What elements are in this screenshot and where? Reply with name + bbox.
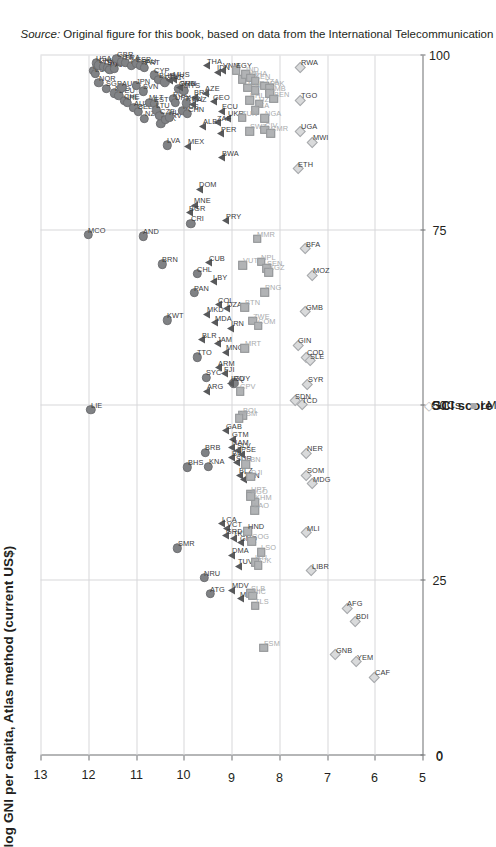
point-label: BEN <box>273 89 289 98</box>
point-label: TTO <box>197 348 212 357</box>
point-label: MMR <box>257 229 275 238</box>
point-label: GAB <box>225 421 241 430</box>
point-label: KGZ <box>268 263 284 272</box>
point-label: LBY <box>213 272 227 281</box>
point-label: SMR <box>177 539 194 548</box>
point-label: MDV <box>231 581 248 590</box>
y-axis-title: log GNI per capita, Atlas method (curren… <box>0 287 15 847</box>
point-label: FSM <box>263 638 279 647</box>
gridline-horizontal <box>327 55 328 755</box>
point-label: PRY <box>225 211 240 220</box>
y-tick-label: 9 <box>228 771 235 785</box>
point-label: GMB <box>305 302 322 311</box>
point-label: DJI <box>250 467 261 476</box>
point-label: NRU <box>204 568 220 577</box>
point-label: MDA <box>214 313 231 322</box>
point-label: ALB <box>202 117 216 126</box>
rotated-figure-wrapper: log GNI per capita, Atlas method (curren… <box>0 0 496 847</box>
point-label: IRN <box>230 319 243 328</box>
source-note: Source: Original figure for this book, b… <box>20 27 496 39</box>
point-label: LAO <box>254 501 269 510</box>
y-tick-label: 7 <box>323 771 330 785</box>
point-label: ARG <box>206 382 222 391</box>
point-label: GNB <box>335 645 351 654</box>
y-tick-label: 5 <box>419 771 426 785</box>
point-label: RWA <box>300 58 317 67</box>
x-tick <box>420 579 425 580</box>
point-label: MOZ <box>312 266 329 275</box>
point-label: NGA <box>264 109 280 118</box>
point-label: LIE <box>90 400 101 409</box>
source-text: Original figure for this book, based on … <box>60 27 496 39</box>
y-tick-label: 10 <box>176 767 190 781</box>
point-label: TUN <box>242 108 258 117</box>
gridline-horizontal <box>374 55 375 755</box>
x-tick-label: 75 <box>432 223 446 237</box>
point-label: CPV <box>240 382 256 391</box>
legend-marker-square-icon: ■ <box>469 399 477 413</box>
y-tick <box>422 755 423 760</box>
gridline-horizontal <box>279 55 280 755</box>
x-tick-label: 100 <box>429 48 450 62</box>
legend-item-lics[interactable]: ◇ LICs <box>424 399 461 411</box>
point-label: AFG <box>347 599 363 608</box>
y-tick <box>136 755 137 760</box>
point-label: MKD <box>206 305 223 314</box>
point-label: PNG <box>264 283 280 292</box>
legend-marker-diamond-icon: ◇ <box>424 399 434 413</box>
point-label: MEX <box>187 137 203 146</box>
point-label: COG <box>251 532 268 541</box>
gridline-horizontal <box>136 55 137 755</box>
point-label: PAN <box>194 283 209 292</box>
legend-label: LICs <box>434 399 461 411</box>
point-label: YEM <box>356 652 372 661</box>
point-label: MRT <box>244 339 260 348</box>
legend: ◇ LICs■ LMICs▲ UMICs● HICs <box>424 398 496 413</box>
point-label: MWI <box>312 133 328 142</box>
point-label: SLE <box>310 351 324 360</box>
y-tick <box>40 755 41 760</box>
point-label: TLS <box>255 596 269 605</box>
axis-origin-label: 0 <box>436 749 443 763</box>
point-label: CAF <box>374 668 389 677</box>
point-label: AZE <box>205 84 220 93</box>
y-tick-label: 12 <box>81 767 95 781</box>
point-label: LVA <box>167 136 180 145</box>
y-tick-label: 13 <box>33 767 47 781</box>
point-label: NIC <box>252 586 265 595</box>
point-label: GEO <box>213 92 230 101</box>
point-label: AND <box>143 227 159 236</box>
point-label: ZAF <box>217 113 231 122</box>
plot-area: 025507510056789101112130 MCOLIEANDBRNKWT… <box>40 55 422 755</box>
point-label: CMR <box>270 124 287 133</box>
legend-item-lmics[interactable]: ■ LMICs <box>469 399 496 411</box>
source-prefix: Source: <box>20 27 60 39</box>
point-label: SYR <box>307 375 323 384</box>
point-label: GIN <box>298 336 311 345</box>
y-tick-label: 6 <box>371 771 378 785</box>
y-tick-label: 8 <box>275 771 282 785</box>
point-label: UGA <box>300 122 316 131</box>
point-label: PER <box>220 124 236 133</box>
y-tick <box>88 755 89 760</box>
scatter-figure: log GNI per capita, Atlas method (curren… <box>0 0 496 847</box>
point-label: COM <box>258 316 276 325</box>
point-label: LIBR <box>311 561 328 570</box>
gridline-horizontal <box>40 55 41 755</box>
point-label: BTN <box>244 298 259 307</box>
x-tick-label: 25 <box>432 573 446 587</box>
point-label: TCD <box>302 395 318 404</box>
point-label: PSE <box>241 445 256 454</box>
point-label: LSO <box>261 543 276 552</box>
point-label: BWA <box>221 148 238 157</box>
point-label: AGO <box>250 487 267 496</box>
point-label: HND <box>247 522 263 531</box>
gridline-horizontal <box>183 55 184 755</box>
point-label: SOM <box>306 466 323 475</box>
point-label: BDI <box>355 612 368 621</box>
y-tick <box>183 755 184 760</box>
y-tick <box>327 755 328 760</box>
point-label: KWT <box>167 311 184 320</box>
point-label: LBN <box>245 455 260 464</box>
point-label: MCO <box>88 225 106 234</box>
